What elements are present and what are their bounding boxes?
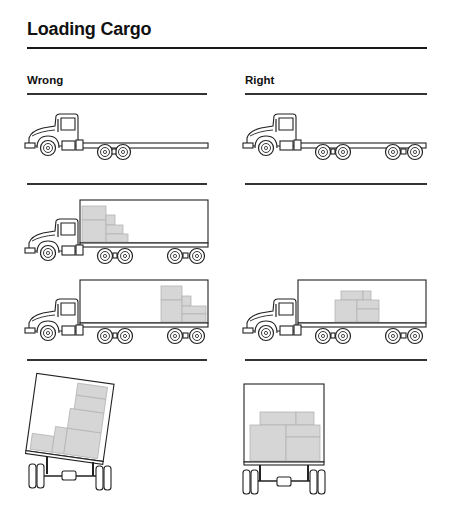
- title-divider: [27, 47, 427, 49]
- row-divider-wrong-2: [27, 359, 207, 361]
- right-heading-divider: [245, 93, 427, 95]
- column-heading-right: Right: [245, 74, 274, 86]
- row-divider-right-2: [245, 359, 427, 361]
- page-title: Loading Cargo: [27, 19, 151, 40]
- wrong-rear-loaded-trailer-figure: [25, 278, 210, 343]
- right-center-loaded-trailer-figure: [243, 278, 428, 343]
- row-divider-right-1: [245, 183, 427, 185]
- right-flatbed-truck-figure: [243, 112, 428, 167]
- wrong-front-loaded-trailer-figure: [25, 198, 210, 263]
- row-divider-wrong-1: [27, 183, 207, 185]
- wrong-heading-divider: [27, 93, 207, 95]
- right-even-load-rear-view-figure: [240, 382, 330, 497]
- wrong-uneven-load-rear-view-figure: [25, 372, 115, 492]
- wrong-flatbed-truck-figure: [25, 112, 210, 167]
- column-heading-wrong: Wrong: [27, 74, 63, 86]
